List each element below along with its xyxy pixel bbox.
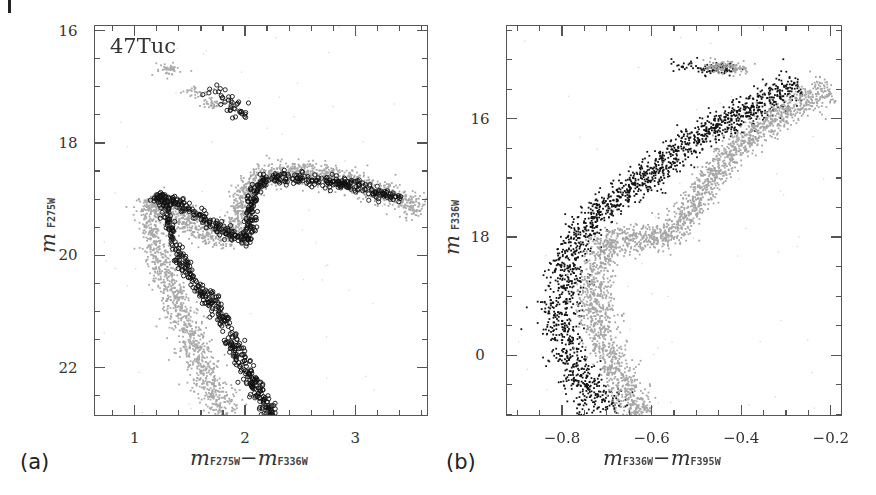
ylabel-sub: F275W [46, 198, 57, 228]
xlabel-minus: − [653, 446, 671, 470]
x-tick-label: −0.4 [723, 429, 759, 447]
xlabel-sub1: F336W [623, 456, 653, 467]
x-tick [134, 405, 135, 416]
x-tick-top [289, 25, 290, 31]
y-tick-right [422, 170, 428, 171]
y-tick [506, 384, 512, 385]
cluster-annotation: 47Tuc [110, 34, 176, 58]
y-tick [506, 296, 512, 297]
y-tick-right [422, 311, 428, 312]
y-tick-right [836, 148, 842, 149]
panel-b-y-axis-label: m F336W [440, 200, 464, 255]
x-tick [785, 410, 786, 416]
x-tick [355, 405, 356, 416]
panel-a-y-axis-label: m F275W [36, 198, 60, 253]
x-tick-label: −0.6 [633, 429, 669, 447]
x-tick-label: 3 [350, 429, 360, 447]
y-tick-label: 20 [58, 246, 77, 264]
y-tick [506, 325, 512, 326]
y-tick [506, 118, 517, 119]
x-tick-label: 2 [240, 429, 250, 447]
x-tick-label: 1 [130, 429, 140, 447]
x-tick [539, 410, 540, 416]
x-tick [421, 410, 422, 416]
y-tick [94, 86, 100, 87]
x-tick [399, 410, 400, 416]
y-tick-label: 22 [58, 359, 77, 377]
x-tick [517, 410, 518, 416]
x-tick-top [539, 25, 540, 31]
x-tick [333, 410, 334, 416]
x-tick [606, 410, 607, 416]
y-tick-right [417, 30, 428, 31]
y-tick [506, 177, 512, 178]
y-tick-right [422, 58, 428, 59]
y-tick-right [836, 266, 842, 267]
xlabel-sub2: F336W [278, 456, 308, 467]
y-tick [94, 255, 105, 256]
x-tick-top [178, 25, 179, 31]
x-tick-top [584, 25, 585, 31]
panel-b-letter: (b) [446, 450, 476, 474]
x-tick [584, 410, 585, 416]
x-tick [561, 405, 562, 416]
y-tick [94, 170, 100, 171]
x-tick [311, 410, 312, 416]
y-tick-right [836, 414, 842, 415]
x-tick-top [355, 25, 356, 36]
y-tick-label: 18 [58, 134, 77, 152]
y-tick-right [836, 325, 842, 326]
x-tick-top [741, 25, 742, 36]
y-tick-label: 0 [475, 346, 485, 364]
y-tick-right [417, 255, 428, 256]
y-tick [94, 142, 105, 143]
x-tick [112, 410, 113, 416]
x-tick-top [222, 25, 223, 31]
y-tick-right [417, 142, 428, 143]
y-tick-right [422, 199, 428, 200]
y-tick [94, 395, 100, 396]
x-tick-top [718, 25, 719, 31]
y-tick-right [422, 283, 428, 284]
y-tick-right [836, 59, 842, 60]
y-tick [506, 355, 517, 356]
xlabel-sub2: F395W [691, 456, 721, 467]
panel-a-x-axis-label: mF275W−mF336W [190, 446, 308, 470]
y-tick-label: 16 [470, 110, 489, 128]
x-tick [673, 410, 674, 416]
x-tick-top [830, 25, 831, 36]
panel-a-letter: (a) [20, 450, 49, 474]
y-tick [506, 236, 517, 237]
y-tick-right [422, 86, 428, 87]
x-tick [651, 405, 652, 416]
panel-b-x-axis-label: mF336W−mF395W [603, 446, 721, 470]
x-tick-top [517, 25, 518, 31]
y-tick-right [417, 367, 428, 368]
x-tick-top [311, 25, 312, 31]
y-tick [506, 148, 512, 149]
x-tick [377, 410, 378, 416]
y-tick-right [831, 118, 842, 119]
x-tick [830, 405, 831, 416]
panel-b-axes-frame [506, 25, 842, 416]
panel-a-axes-frame [94, 25, 428, 416]
y-tick-right [422, 339, 428, 340]
y-tick [506, 59, 512, 60]
y-tick [94, 114, 100, 115]
x-tick [741, 405, 742, 416]
ylabel-sub: F336W [450, 200, 461, 230]
y-tick-label: 18 [470, 228, 489, 246]
y-tick [94, 58, 100, 59]
y-tick-right [836, 89, 842, 90]
x-tick-top [377, 25, 378, 31]
x-tick-top [696, 25, 697, 31]
x-tick-top [606, 25, 607, 31]
xlabel-m1: m [190, 446, 210, 470]
ylabel-m: m [440, 235, 464, 255]
x-tick-top [785, 25, 786, 31]
x-tick [156, 410, 157, 416]
x-tick-top [399, 25, 400, 31]
x-tick-top [156, 25, 157, 31]
y-tick [506, 89, 512, 90]
y-tick [94, 339, 100, 340]
